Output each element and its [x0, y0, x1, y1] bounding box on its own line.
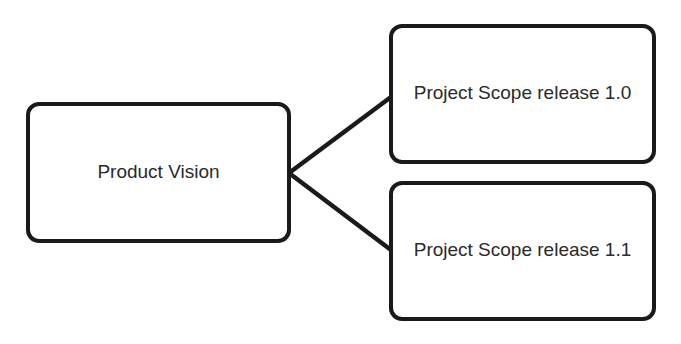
edge-vision-to-release-1-0 [289, 97, 391, 173]
node-project-scope-release-1-0: Project Scope release 1.0 [389, 24, 656, 164]
node-product-vision: Product Vision [26, 102, 291, 243]
edge-vision-to-release-1-1 [289, 173, 391, 250]
node-label: Product Vision [97, 161, 219, 183]
node-project-scope-release-1-1: Project Scope release 1.1 [389, 181, 656, 321]
node-label: Project Scope release 1.0 [414, 82, 632, 104]
node-label: Project Scope release 1.1 [414, 239, 632, 261]
